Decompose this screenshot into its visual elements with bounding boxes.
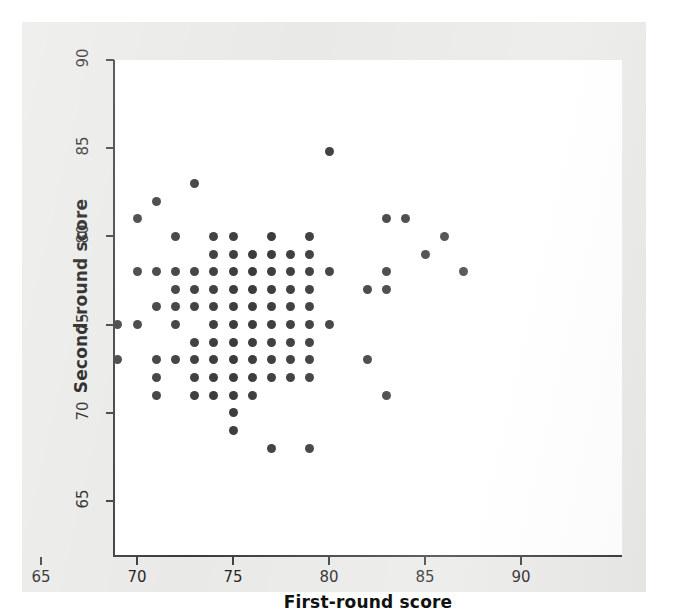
x-axis-tick-label: 70 [117,568,157,586]
y-axis-tick [106,147,114,149]
x-axis-tick-label: 85 [405,568,445,586]
scatter-point [421,250,430,259]
scatter-point [133,320,142,329]
scatter-point [190,285,199,294]
scatter-point [325,320,334,329]
scatter-point [152,373,161,382]
x-axis-tick-label: 75 [213,568,253,586]
x-axis-tick [232,557,234,565]
scatter-point [267,444,276,453]
scatter-point [267,320,276,329]
y-axis-title: Second-round score [71,166,91,426]
scatter-point [286,250,295,259]
scatter-point [459,267,468,276]
scatter-point [229,408,238,417]
scatter-point [171,320,180,329]
scatter-point [267,373,276,382]
scatter-point [382,285,391,294]
scatter-point [152,391,161,400]
y-axis-tick [106,412,114,414]
y-axis-tick [106,59,114,61]
x-axis-tick [40,557,42,565]
scatter-point [248,285,257,294]
scatter-point [229,391,238,400]
x-axis-tick [136,557,138,565]
figure-panel: 657075808590 657075808590 Second-round s… [22,22,646,592]
scatter-point [267,232,276,241]
scatter-point [229,232,238,241]
x-axis-tick-label: 80 [309,568,349,586]
y-axis-tick [106,500,114,502]
scatter-point [267,250,276,259]
x-axis-line [113,555,622,557]
scatter-point [267,267,276,276]
scatter-point [267,285,276,294]
scatter-point [209,250,218,259]
y-axis-line [113,60,115,556]
scatter-point [190,338,199,347]
scatter-point [248,391,257,400]
scatter-point [248,373,257,382]
scatter-point [171,232,180,241]
scatter-point [325,147,334,156]
scatter-point [229,355,238,364]
x-axis-title: First-round score [114,592,622,612]
scatter-point [248,320,257,329]
scatter-point [248,250,257,259]
x-axis-tick-label: 65 [21,568,61,586]
y-axis-tick-label: 65 [74,482,92,516]
scatter-point [325,267,334,276]
y-axis-tick [106,235,114,237]
scatter-point [190,391,199,400]
scatter-point [229,302,238,311]
scatter-point [267,338,276,347]
screenshot-root: 657075808590 657075808590 Second-round s… [0,0,676,614]
y-axis-tick-label: 85 [74,129,92,163]
scatter-point [363,285,372,294]
scatter-point [229,320,238,329]
scatter-point [152,197,161,206]
scatter-point [286,338,295,347]
scatter-point [305,338,314,347]
scatter-point [133,267,142,276]
scatter-point [229,426,238,435]
x-axis-tick [328,557,330,565]
scatter-point [248,338,257,347]
y-axis-tick-label: 90 [74,41,92,75]
scatter-point [305,444,314,453]
scatter-point [248,267,257,276]
x-axis-tick [424,557,426,565]
scatter-point [133,214,142,223]
scatter-point [190,179,199,188]
scatter-point [229,373,238,382]
scatter-point [229,267,238,276]
scatter-point [305,250,314,259]
scatter-point [209,338,218,347]
scatter-point [229,285,238,294]
x-axis-tick-label: 90 [501,568,541,586]
scatter-point [152,267,161,276]
scatter-point [382,391,391,400]
scatter-point [229,250,238,259]
scatter-point [209,391,218,400]
scatter-point [440,232,449,241]
scatter-point [171,285,180,294]
scatter-point [229,338,238,347]
x-axis-tick [520,557,522,565]
scatter-point [171,267,180,276]
scatter-point [286,285,295,294]
